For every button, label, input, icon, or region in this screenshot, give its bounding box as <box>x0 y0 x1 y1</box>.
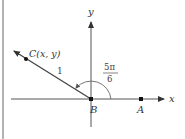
unit-circle-angle-diagram: y x B A C(x, y) 1 5π 6 <box>0 0 185 139</box>
point-a <box>139 97 143 101</box>
point-b-label: B <box>89 104 97 115</box>
point-c <box>24 57 28 61</box>
angle-denominator: 6 <box>107 74 112 84</box>
y-axis-label: y <box>87 6 94 17</box>
x-axis-label: x <box>169 93 175 104</box>
point-c-label: C(x, y) <box>29 48 61 59</box>
angle-arc <box>76 81 111 99</box>
angle-numerator: 5π <box>104 62 115 72</box>
point-a-label: A <box>136 104 144 115</box>
segment-length-label: 1 <box>57 66 63 76</box>
point-b <box>89 97 93 101</box>
